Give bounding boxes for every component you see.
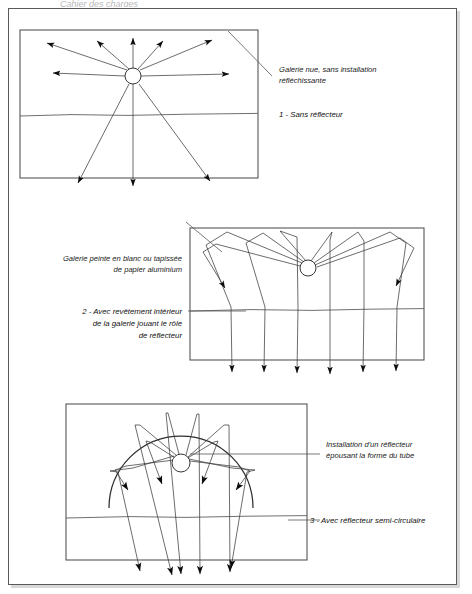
figure-2-reflected-rays [203, 231, 414, 374]
figure-1-frame [20, 30, 258, 178]
figure-1-leader-line [228, 31, 272, 76]
figure-3-caption: 3 - Avec réflecteur semi-circulaire [310, 516, 426, 525]
figure-2-annotation-line2: de papier aluminium [114, 265, 182, 274]
figure-2-light-source [300, 260, 316, 276]
figure-1-caption: 1 - Sans réflecteur [279, 110, 343, 119]
figure-3-group: Installation d'un réflecteur épousant la… [66, 404, 426, 575]
figure-1-annotation-line1: Galerie nue, sans installation [279, 65, 377, 74]
figure-2-caption-line1: 2 - Avec revêtement intérieur [81, 307, 182, 316]
figure-3-ground-line [66, 516, 307, 518]
figure-2-caption-line2: de la galerie jouant le rôle [93, 319, 183, 328]
figure-2-group: Galerie peinte en blanc ou tapissée de p… [63, 222, 424, 374]
figure-3-reflected-rays [110, 413, 255, 575]
figure-1-annotation-line2: réfléchissante [279, 76, 326, 85]
figure-3-light-source [172, 454, 190, 472]
document-page: Cahier des charges [0, 0, 472, 594]
lighting-reflector-diagram: Galerie nue, sans installation réfléchis… [0, 0, 472, 594]
figure-1-rays [47, 38, 229, 186]
figure-1-light-source [125, 68, 141, 84]
figure-2-caption-line3: de réflecteur [139, 331, 183, 340]
figure-3-annotation-line1: Installation d'un réflecteur [326, 440, 413, 449]
figure-2-annotation-line1: Galerie peinte en blanc ou tapissée [63, 254, 182, 263]
figure-2-leader-line [186, 222, 222, 252]
figure-3-frame [66, 404, 307, 560]
figure-1-group: Galerie nue, sans installation réfléchis… [20, 30, 377, 186]
figure-1-ground-line [20, 113, 258, 116]
figure-3-annotation-line2: épousant la forme du tube [326, 451, 414, 460]
figure-2-frame [190, 228, 424, 360]
